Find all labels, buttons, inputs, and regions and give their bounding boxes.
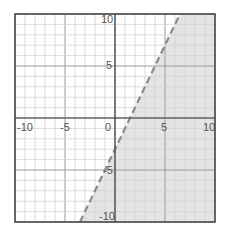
x-tick-label: 5 xyxy=(161,121,167,133)
y-tick-label: 5 xyxy=(106,59,112,71)
x-tick-label: 0 xyxy=(105,121,111,133)
inequality-graph: -10 -5 0 5 10 10 5 -5 -10 xyxy=(0,0,231,241)
y-tick-label: 10 xyxy=(101,13,113,25)
x-tick-label: 10 xyxy=(203,121,215,133)
x-tick-label: -5 xyxy=(60,121,70,133)
x-tick-label: -10 xyxy=(17,121,33,133)
y-tick-label: -10 xyxy=(99,210,115,222)
y-tick-label: -5 xyxy=(103,164,113,176)
